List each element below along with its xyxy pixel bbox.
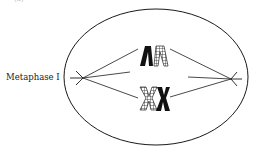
- metaphase-diagram: [0, 0, 253, 147]
- chromosome-checkered: [154, 46, 168, 66]
- homologous-pair-top: [140, 46, 168, 66]
- chromosome-checkered: [140, 87, 157, 110]
- chromosome-solid: [140, 46, 153, 66]
- left-spindle-pole: [70, 71, 83, 85]
- chromosome-solid: [156, 87, 170, 111]
- homologous-pair-bottom: [140, 87, 170, 111]
- right-spindle-pole: [231, 72, 242, 86]
